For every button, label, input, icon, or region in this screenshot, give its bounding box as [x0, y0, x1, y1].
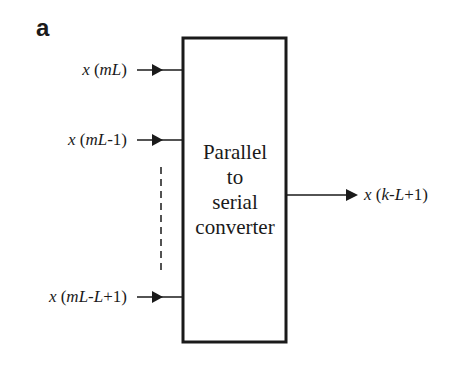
output-label: x (k-L+1) — [364, 186, 428, 203]
input-arrow-1 — [137, 64, 182, 76]
input-arrow-3 — [137, 291, 182, 303]
output-arrow — [287, 189, 358, 201]
input-arrow-2 — [137, 134, 182, 146]
input-label-1: x (mL) — [82, 61, 127, 78]
converter-block-label: Parallel to serial converter — [184, 140, 286, 240]
input-label-2: x (mL-1) — [68, 131, 127, 148]
input-label-3: x (mL-L+1) — [49, 288, 127, 305]
panel-label: a — [36, 16, 49, 40]
